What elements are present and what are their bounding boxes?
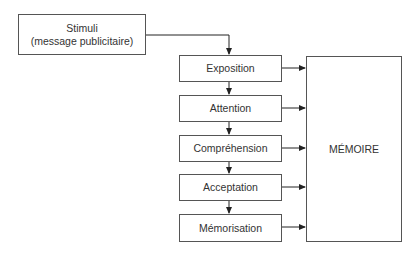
stage-comprehension: Compréhension	[179, 135, 282, 162]
stage-label: Attention	[210, 102, 251, 115]
memory-label: MÉMOIRE	[329, 143, 379, 156]
memory-box: MÉMOIRE	[306, 56, 402, 242]
arrow-stimuli-exposition	[145, 35, 229, 54]
stage-label: Mémorisation	[199, 222, 262, 235]
stage-attention: Attention	[179, 95, 282, 122]
stimuli-title: Stimuli	[66, 22, 98, 35]
stage-memorisation: Mémorisation	[179, 214, 282, 242]
stage-label: Exposition	[206, 62, 254, 75]
stage-label: Acceptation	[203, 181, 258, 194]
diagram-canvas: Stimuli (message publicitaire) Expositio…	[0, 0, 418, 255]
stage-exposition: Exposition	[179, 55, 282, 82]
stage-label: Compréhension	[193, 142, 267, 155]
stage-acceptation: Acceptation	[179, 174, 282, 201]
stimuli-subtitle: (message publicitaire)	[31, 35, 134, 48]
stimuli-box: Stimuli (message publicitaire)	[18, 14, 146, 55]
